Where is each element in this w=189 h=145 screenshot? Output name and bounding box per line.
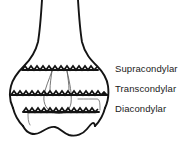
label-supracondylar: Supracondylar — [115, 64, 178, 74]
label-diacondylar: Diacondylar — [115, 104, 166, 114]
fracture-diagram-figure: Supracondylar Transcondylar Diacondylar — [0, 0, 189, 145]
diacondylar-fracture-line — [23, 108, 99, 112]
trochlea-capitulum-margin — [23, 123, 95, 136]
medial-condyle-inner-line — [28, 112, 30, 125]
label-transcondylar: Transcondylar — [115, 84, 176, 94]
medial-condyle-outline — [13, 108, 23, 126]
transcondylar-fracture-line — [10, 91, 108, 95]
supracondylar-fracture-line — [22, 66, 98, 70]
